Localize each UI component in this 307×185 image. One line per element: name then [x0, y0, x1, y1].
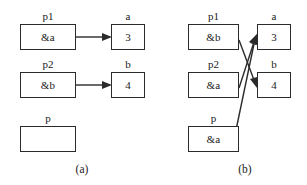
value-box-b-panel-b: 4	[257, 72, 291, 98]
arrow-line-p2-to-a	[239, 42, 254, 88]
pointer-box-p1-panel-a: &a	[20, 24, 76, 50]
value-box-a-panel-b: 3	[257, 24, 291, 50]
panel-b: p1 &b a 3 p2 &a b 4 p &a (b)	[155, 0, 307, 185]
pointer-value-p1-panel-b: &b	[206, 32, 220, 43]
pointer-box-p2-panel-a: &b	[20, 72, 76, 98]
label-p1-panel-b: p1	[188, 11, 239, 22]
label-p-panel-a: p	[20, 113, 76, 124]
pointer-box-p1-panel-b: &b	[188, 24, 239, 50]
label-p-panel-b: p	[188, 113, 239, 124]
value-a-panel-b: 3	[271, 32, 277, 43]
value-box-b-panel-a: 4	[111, 72, 145, 98]
value-b-panel-a: 4	[125, 80, 131, 91]
pointer-value-p2-panel-b: &a	[207, 80, 221, 91]
value-b-panel-b: 4	[271, 80, 277, 91]
caption-panel-a: (a)	[62, 164, 102, 176]
arrow-head-p-to-a	[249, 34, 257, 45]
pointer-value-p-panel-b: &a	[207, 134, 221, 145]
pointer-diagram-figure: p1 &a a 3 p2 &b b 4 p (a)	[0, 0, 307, 185]
label-p2-panel-a: p2	[20, 59, 76, 70]
arrow-line-p1-to-b	[239, 40, 254, 80]
arrow-head-p2-to-a	[250, 34, 257, 45]
label-p2-panel-b: p2	[188, 59, 239, 70]
value-box-a-panel-a: 3	[111, 24, 145, 50]
pointer-value-p2-panel-a: &b	[41, 80, 55, 91]
label-a-panel-a: a	[111, 11, 145, 22]
label-b-panel-b: b	[257, 59, 291, 70]
pointer-box-p-panel-b: &a	[188, 126, 239, 152]
arrow-head-p1-to-b	[250, 77, 257, 88]
caption-panel-b: (b)	[225, 164, 265, 176]
pointer-value-p1-panel-a: &a	[41, 32, 55, 43]
label-p1-panel-a: p1	[20, 11, 76, 22]
pointer-box-p2-panel-b: &a	[188, 72, 239, 98]
panel-a: p1 &a a 3 p2 &b b 4 p (a)	[0, 0, 155, 185]
value-a-panel-a: 3	[125, 32, 131, 43]
pointer-box-p-panel-a	[20, 126, 76, 152]
label-a-panel-b: a	[257, 11, 291, 22]
label-b-panel-a: b	[111, 59, 145, 70]
